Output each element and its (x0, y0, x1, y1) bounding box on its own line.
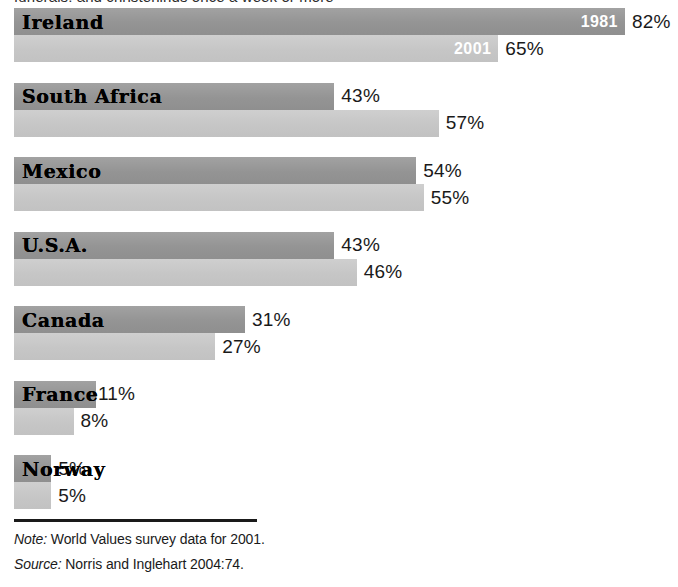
note-text: World Values survey data for 2001. (51, 531, 265, 547)
bar-group-2001: 27% (14, 333, 261, 360)
value-label-1981: 82% (625, 11, 671, 33)
bar-2001[interactable] (14, 408, 74, 435)
country-label: South Africa (22, 85, 162, 107)
country-label: France (22, 383, 99, 405)
bar-1981[interactable]: Mexico (14, 157, 416, 184)
source-text: Norris and Inglehart 2004:74. (65, 556, 243, 572)
chart-row: France11%8% (0, 381, 678, 437)
chart-row: Mexico54%55% (0, 157, 678, 213)
bar-1981[interactable]: Norway (14, 455, 51, 482)
bar-chart: Ireland198182%200165%South Africa43%57%M… (0, 8, 678, 508)
bar-group-2001: 46% (14, 259, 402, 286)
chart-row: Canada31%27% (0, 306, 678, 362)
bar-group-2001: 57% (14, 110, 484, 137)
bar-group-1981: Ireland198182% (14, 8, 671, 35)
bar-group-2001: 200165% (14, 35, 544, 62)
clipped-chart-title-text: funerals, and christenings once a week o… (14, 0, 334, 2)
bar-2001[interactable] (14, 110, 439, 137)
value-label-2001: 57% (439, 112, 485, 134)
chart-row: South Africa43%57% (0, 83, 678, 139)
bar-group-1981: France11% (14, 381, 135, 408)
bar-1981[interactable]: Canada (14, 306, 245, 333)
country-label: Ireland (22, 11, 104, 33)
bar-group-1981: Mexico54% (14, 157, 462, 184)
chart-row: Ireland198182%200165% (0, 8, 678, 64)
footer-notes: Note: World Values survey data for 2001.… (14, 531, 654, 581)
value-label-1981: 43% (334, 85, 380, 107)
source-label: Source: (14, 556, 62, 572)
value-label-1981: 11% (96, 383, 135, 405)
country-label: Canada (22, 309, 105, 331)
bar-2001[interactable] (14, 333, 215, 360)
series-label-2001: 2001 (454, 40, 491, 58)
bar-1981[interactable]: Ireland1981 (14, 8, 625, 35)
chart-row: U.S.A.43%46% (0, 232, 678, 288)
bar-1981[interactable]: U.S.A. (14, 232, 334, 259)
country-label: Norway (22, 458, 105, 480)
value-label-1981: 31% (245, 309, 291, 331)
bar-group-1981: U.S.A.43% (14, 232, 380, 259)
note-label: Note: (14, 531, 47, 547)
bar-group-1981: Norway5% (14, 455, 86, 482)
value-label-2001: 55% (424, 187, 470, 209)
value-label-1981: 43% (334, 234, 380, 256)
bar-group-2001: 8% (14, 408, 108, 435)
bar-2001[interactable] (14, 184, 424, 211)
note-row: Note: World Values survey data for 2001. (14, 531, 654, 547)
series-label-1981: 1981 (581, 13, 618, 31)
bar-group-2001: 55% (14, 184, 469, 211)
value-label-2001: 46% (357, 261, 403, 283)
footer-divider (14, 519, 257, 522)
clipped-chart-title: funerals, and christenings once a week o… (14, 0, 654, 2)
bar-1981[interactable]: South Africa (14, 83, 334, 110)
bar-1981[interactable]: France (14, 381, 96, 408)
bar-2001[interactable] (14, 482, 51, 509)
value-label-2001: 8% (74, 410, 109, 432)
bar-2001[interactable]: 2001 (14, 35, 498, 62)
value-label-2001: 5% (51, 485, 86, 507)
country-label: U.S.A. (22, 234, 88, 256)
source-row: Source: Norris and Inglehart 2004:74. (14, 556, 654, 572)
value-label-2001: 27% (215, 336, 261, 358)
bar-group-1981: Canada31% (14, 306, 291, 333)
value-label-2001: 65% (498, 38, 544, 60)
bar-2001[interactable] (14, 259, 357, 286)
value-label-1981: 54% (416, 160, 462, 182)
bar-group-1981: South Africa43% (14, 83, 380, 110)
country-label: Mexico (22, 160, 102, 182)
chart-row: Norway5%5% (0, 455, 678, 511)
bar-group-2001: 5% (14, 482, 86, 509)
